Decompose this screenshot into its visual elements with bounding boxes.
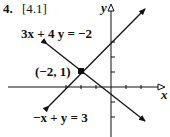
x-axis-label: x <box>161 87 168 103</box>
equation-label-1: 3x + 4 y = −2 <box>21 26 92 42</box>
intersection-point <box>78 68 84 74</box>
intersection-label: (−2, 1) <box>35 64 71 80</box>
y-axis-label: y <box>101 0 107 16</box>
y-ticks <box>111 42 115 117</box>
equation-label-2: −x + y = 3 <box>33 110 88 126</box>
